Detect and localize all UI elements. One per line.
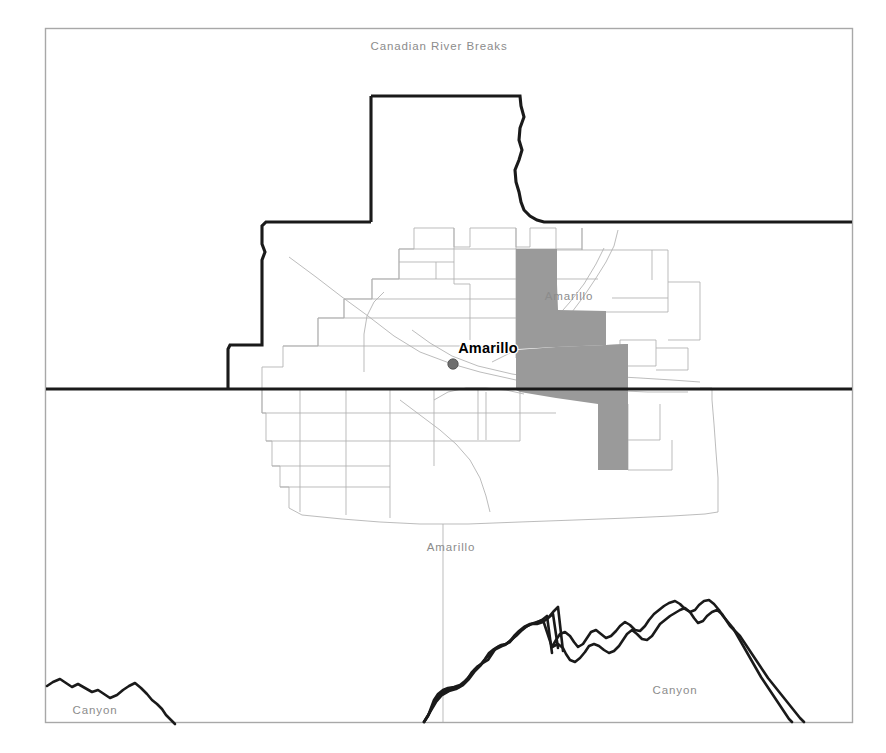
label-canyon-southeast: Canyon — [652, 684, 697, 696]
label-amarillo-south: Amarillo — [427, 541, 476, 553]
label-canadian-river-breaks: Canadian River Breaks — [370, 40, 507, 52]
map-canvas[interactable]: Canadian River Breaks Amarillo Amarillo … — [0, 0, 886, 753]
map-graphic[interactable]: Canadian River Breaks Amarillo Amarillo … — [0, 0, 886, 753]
amarillo-city-dot-icon — [448, 359, 458, 369]
label-amarillo-city: Amarillo — [458, 340, 518, 356]
label-canyon-southwest: Canyon — [72, 704, 117, 716]
label-amarillo-northeast: Amarillo — [545, 290, 594, 302]
